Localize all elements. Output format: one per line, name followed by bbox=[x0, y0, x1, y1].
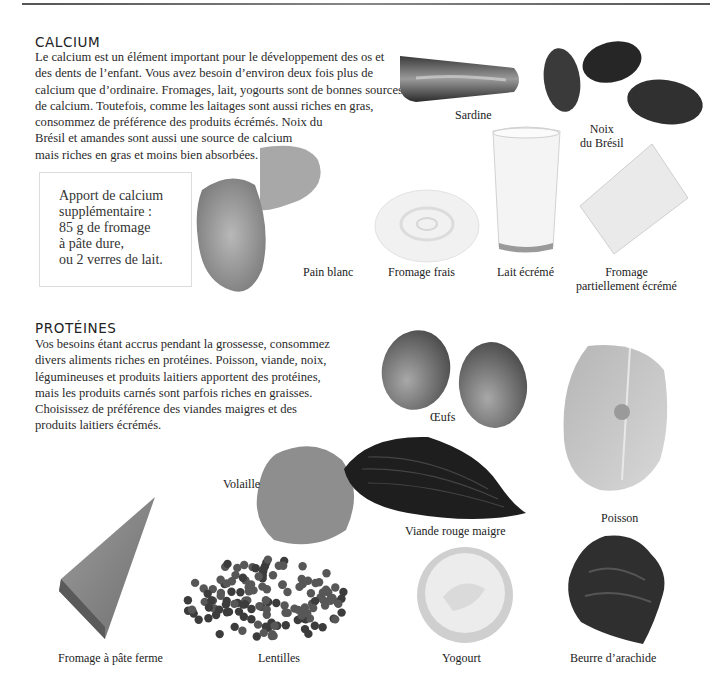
eggs-image bbox=[378, 330, 533, 435]
skim-milk-label: Lait écrémé bbox=[497, 265, 554, 279]
peanut-butter-image bbox=[565, 532, 670, 647]
calcium-callout-text: Apport de calcium supplémentaire : 85 g … bbox=[59, 188, 163, 268]
fresh-cheese-label: Fromage frais bbox=[388, 265, 455, 279]
top-divider bbox=[22, 3, 710, 5]
proteins-line: divers aliments riches en protéines. Poi… bbox=[35, 352, 330, 368]
sardine-label: Sardine bbox=[455, 108, 492, 122]
fish-label: Poisson bbox=[601, 511, 638, 525]
part-skim-cheese-image bbox=[578, 142, 690, 254]
fresh-cheese-image bbox=[372, 186, 482, 266]
proteins-line: légumineuses et produits laitiers apport… bbox=[35, 369, 330, 385]
sardine-image bbox=[396, 50, 526, 105]
brazil-nuts-image bbox=[540, 40, 710, 135]
white-bread-label: Pain blanc bbox=[303, 265, 353, 279]
calcium-line: calcium que d’ordinaire. Fromages, lait,… bbox=[35, 82, 403, 98]
callout-line: Apport de calcium bbox=[59, 188, 163, 204]
callout-line: à pâte dure, bbox=[59, 236, 163, 252]
fish-image bbox=[560, 340, 672, 495]
hard-cheese-label: Fromage à pâte ferme bbox=[58, 651, 163, 665]
peanut-butter-label: Beurre d’arachide bbox=[570, 651, 656, 665]
callout-line: 85 g de fromage bbox=[59, 220, 163, 236]
callout-line: supplémentaire : bbox=[59, 204, 163, 220]
proteins-paragraph: Vos besoins étant accrus pendant la gros… bbox=[35, 336, 330, 434]
hard-cheese-image bbox=[55, 497, 160, 642]
proteins-heading: PROTÉINES bbox=[35, 320, 117, 336]
part-skim-cheese-label: Fromage partiellement écrémé bbox=[576, 265, 677, 293]
lentils-image bbox=[176, 550, 356, 660]
poultry-label: Volaille bbox=[223, 477, 260, 491]
eggs-label: Œufs bbox=[430, 410, 455, 424]
calcium-line: de calcium. Toutefois, comme les laitage… bbox=[35, 98, 403, 114]
yogurt-image bbox=[415, 545, 515, 645]
calcium-line: des dents de l’enfant. Vous avez besoin … bbox=[35, 65, 403, 81]
yogurt-label: Yogourt bbox=[442, 651, 481, 665]
skim-milk-image bbox=[489, 125, 564, 255]
lentils-label: Lentilles bbox=[258, 651, 300, 665]
proteins-line: produits laitiers écrémés. bbox=[35, 417, 330, 433]
callout-line: ou 2 verres de lait. bbox=[59, 252, 163, 268]
lean-red-meat-image bbox=[338, 433, 528, 528]
lean-red-meat-label: Viande rouge maigre bbox=[405, 524, 506, 538]
calcium-heading: CALCIUM bbox=[35, 34, 100, 50]
calcium-line: consommez de préférence des produits écr… bbox=[35, 114, 403, 130]
proteins-line: Vos besoins étant accrus pendant la gros… bbox=[35, 336, 330, 352]
proteins-line: mais les produits carnés sont parfois ri… bbox=[35, 385, 330, 401]
proteins-line: Choisissez de préférence des viandes mai… bbox=[35, 401, 330, 417]
calcium-line: Le calcium est un élément important pour… bbox=[35, 49, 403, 65]
